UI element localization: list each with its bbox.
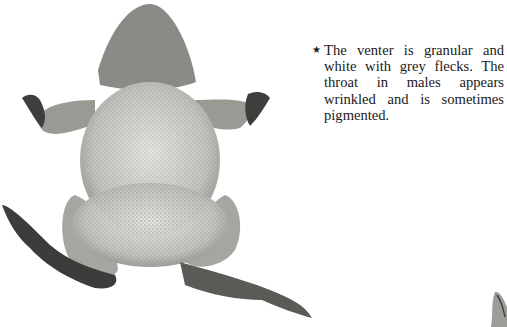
frog-photo — [0, 0, 320, 327]
star-bullet-icon: ★ — [312, 42, 321, 58]
caption-block: ★ The venter is granular and white with … — [324, 42, 504, 123]
adjacent-photo-fragment — [477, 277, 507, 327]
caption-text: The venter is granular and white with gr… — [324, 42, 504, 123]
